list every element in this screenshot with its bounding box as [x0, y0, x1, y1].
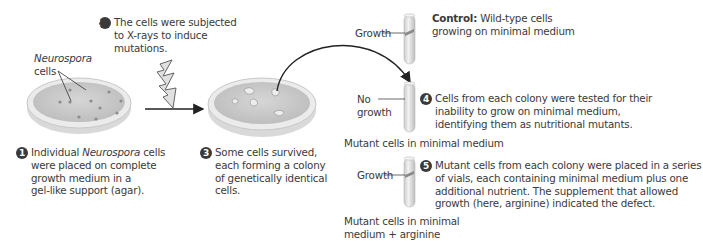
- growth-word-label: growth: [357, 106, 392, 119]
- mutant-minimal-label: Mutant cells in minimal medium: [344, 137, 504, 150]
- step-number-badge: 4: [420, 93, 432, 105]
- growth-label-control: Growth: [355, 27, 391, 40]
- step-3-caption: 3Some cells survived, each forming a col…: [200, 146, 327, 197]
- step-number-badge: 5: [420, 160, 432, 172]
- test-tube-icon: [384, 157, 415, 207]
- neurospora-label: Neurospora: [34, 52, 92, 65]
- cells-label: cells: [34, 65, 56, 78]
- step-2-caption: 2The cells were subjected to X-rays to i…: [99, 16, 237, 54]
- step-5-caption: 5Mutant cells from each colony were plac…: [420, 159, 701, 210]
- control-caption: Control: Wild-type cells growing on mini…: [432, 12, 575, 37]
- mutant-arginine-label: Mutant cells in minimal medium + arginin…: [344, 215, 460, 240]
- step-number-badge: 1: [16, 147, 28, 159]
- petri-dish-icon: [27, 71, 131, 134]
- petri-dish-icon: [208, 78, 316, 137]
- step-number-badge: 3: [200, 147, 212, 159]
- step-4-caption: 4Cells from each colony were tested for …: [420, 92, 652, 130]
- step-1-caption: 1Individual Neurospora cells were placed…: [16, 146, 165, 197]
- no-label: No: [357, 93, 371, 106]
- xray-lightning-icon: [157, 60, 176, 108]
- step-number-badge: 2: [99, 17, 111, 29]
- growth-label-arginine: Growth: [357, 169, 393, 182]
